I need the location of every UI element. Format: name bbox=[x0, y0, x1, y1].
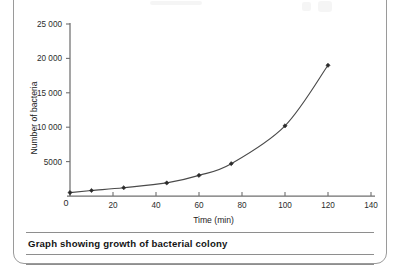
caption-text: Graph showing growth of bacterial colony bbox=[26, 233, 374, 254]
x-tick-label: 120 bbox=[321, 201, 335, 210]
caption-rule-bottom bbox=[26, 254, 374, 255]
x-tick-label: 40 bbox=[151, 201, 161, 210]
x-tick-label: 140 bbox=[364, 201, 378, 210]
x-tick-label: 100 bbox=[278, 201, 292, 210]
data-point-marker bbox=[122, 186, 126, 190]
origin-label: 0 bbox=[63, 198, 68, 208]
chart-canvas: 500010 00015 00020 00025 000 20406080100… bbox=[0, 0, 400, 232]
page-rule-bottom bbox=[26, 264, 374, 265]
caption-block: Graph showing growth of bacterial colony bbox=[26, 232, 374, 265]
data-point-marker bbox=[165, 181, 169, 185]
y-tick-label: 20 000 bbox=[37, 54, 62, 63]
x-tick-label: 60 bbox=[194, 201, 204, 210]
data-point-marker bbox=[89, 188, 93, 192]
x-axis-tick-labels: 20406080100120140 bbox=[108, 201, 378, 210]
y-tick-label: 5000 bbox=[44, 158, 63, 167]
data-point-marker bbox=[197, 173, 201, 177]
data-point-marker bbox=[68, 190, 72, 194]
y-tick-label: 25 000 bbox=[37, 20, 62, 29]
x-axis-title: Time (min) bbox=[193, 215, 234, 225]
x-tick-label: 20 bbox=[108, 201, 118, 210]
data-point-markers bbox=[68, 63, 330, 194]
x-tick-label: 80 bbox=[237, 201, 247, 210]
y-axis-title: Number of bacteria bbox=[29, 81, 39, 154]
y-tick-label: 15 000 bbox=[37, 89, 62, 98]
y-axis-tick-labels: 500010 00015 00020 00025 000 bbox=[37, 20, 62, 167]
y-tick-label: 10 000 bbox=[37, 123, 62, 132]
bacterial-growth-chart: 500010 00015 00020 00025 000 20406080100… bbox=[0, 0, 400, 232]
